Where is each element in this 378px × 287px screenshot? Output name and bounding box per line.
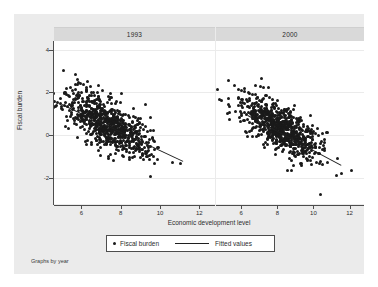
y-tick: [49, 92, 53, 93]
scatter-point: [246, 118, 249, 121]
scatter-point: [302, 123, 305, 126]
scatter-point: [253, 111, 256, 114]
scatter-point: [143, 146, 146, 149]
scatter-point: [266, 143, 269, 146]
scatter-point: [80, 108, 83, 111]
scatter-point: [252, 126, 255, 129]
scatter-point: [322, 144, 325, 147]
scatter-point: [71, 104, 74, 107]
scatter-point: [74, 73, 77, 76]
scatter-point: [309, 114, 312, 117]
scatter-point: [70, 111, 73, 114]
scatter-point: [66, 119, 69, 122]
scatter-point: [263, 126, 266, 129]
scatter-point: [128, 116, 131, 119]
y-axis-line: [53, 41, 54, 205]
scatter-point: [251, 135, 254, 138]
scatter-point: [96, 91, 99, 94]
scatter-point: [97, 84, 100, 87]
y-axis-title: Fiscal burden: [16, 66, 23, 156]
scatter-point: [275, 142, 278, 145]
scatter-point: [67, 127, 70, 130]
scatter-point: [248, 130, 251, 133]
scatter-point: [65, 115, 68, 118]
scatter-point: [293, 125, 296, 128]
stata-graph-figure: 1993 2000 -2024 681012681012 Fiscal burd…: [0, 0, 378, 287]
y-tick: [49, 135, 53, 136]
scatter-point: [124, 113, 127, 116]
scatter-point: [59, 97, 62, 100]
x-tick: [199, 205, 200, 209]
scatter-point: [309, 130, 312, 133]
x-tick: [160, 205, 161, 209]
scatter-point: [226, 112, 229, 115]
scatter-point: [147, 149, 150, 152]
scatter-point: [336, 157, 339, 160]
scatter-point: [319, 193, 322, 196]
scatter-point: [282, 148, 285, 151]
scatter-point: [237, 104, 240, 107]
scatter-point: [299, 116, 302, 119]
gridline: [54, 178, 215, 179]
y-tick-label: -2: [38, 175, 49, 181]
scatter-point: [321, 132, 324, 135]
legend-label-fiscal-burden: Fiscal burden: [120, 240, 159, 247]
scatter-point: [93, 127, 96, 130]
scatter-point: [128, 151, 131, 154]
scatter-point: [139, 156, 142, 159]
scatter-point: [218, 98, 221, 101]
gridline: [216, 50, 364, 51]
x-tick: [81, 205, 82, 209]
legend-item-fiscal-burden: Fiscal burden: [113, 240, 159, 247]
scatter-point: [228, 118, 231, 121]
scatter-point: [292, 164, 295, 167]
scatter-point: [114, 152, 117, 155]
scatter-point: [64, 125, 67, 128]
x-tick-label: 8: [270, 210, 284, 216]
scatter-point: [318, 146, 321, 149]
scatter-point: [273, 107, 276, 110]
scatter-point: [287, 122, 290, 125]
scatter-point: [92, 91, 95, 94]
scatter-point: [83, 128, 86, 131]
scatter-point: [120, 92, 123, 95]
scatter-point: [109, 143, 112, 146]
scatter-point: [297, 153, 300, 156]
scatter-point: [119, 139, 122, 142]
scatter-point: [86, 139, 89, 142]
scatter-point: [292, 108, 295, 111]
scatter-point: [290, 159, 293, 162]
scatter-point: [241, 98, 244, 101]
scatter-point: [142, 158, 145, 161]
scatter-point: [86, 104, 89, 107]
scatter-point: [240, 114, 243, 117]
scatter-point: [309, 159, 312, 162]
scatter-point: [289, 110, 292, 113]
scatter-point: [149, 129, 152, 132]
x-tick-label: 6: [234, 210, 248, 216]
scatter-point: [300, 162, 303, 165]
scatter-point: [179, 162, 182, 165]
scatter-point: [285, 128, 288, 131]
scatter-point: [311, 124, 314, 127]
scatter-point: [132, 107, 135, 110]
x-tick-label: 12: [343, 210, 357, 216]
scatter-point: [275, 135, 278, 138]
scatter-point: [115, 148, 118, 151]
gridline: [54, 50, 215, 51]
panel-title-right: 2000: [216, 27, 364, 41]
scatter-point: [109, 153, 112, 156]
scatter-point: [290, 169, 293, 172]
x-tick-label: 12: [192, 210, 206, 216]
legend-marker-line-icon: [175, 243, 209, 244]
y-tick: [49, 50, 53, 51]
scatter-point: [131, 121, 134, 124]
scatter-point: [122, 139, 125, 142]
scatter-point: [239, 120, 242, 123]
scatter-point: [76, 136, 79, 139]
scatter-point: [260, 77, 263, 80]
scatter-point: [101, 89, 104, 92]
scatter-point: [122, 122, 125, 125]
scatter-point: [300, 119, 303, 122]
scatter-point: [131, 156, 134, 159]
